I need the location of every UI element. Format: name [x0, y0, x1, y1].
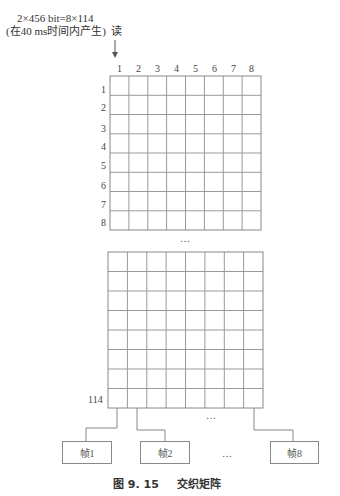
- column-label: 2: [136, 63, 141, 75]
- row-label: 3: [101, 123, 106, 135]
- frame-box-2: 帧2: [140, 441, 190, 464]
- columns-ellipsis: …: [206, 410, 216, 422]
- row-label: 5: [101, 160, 106, 172]
- row-label: 1: [101, 84, 106, 96]
- row-label: 7: [101, 199, 106, 211]
- figure-title: 交织矩阵: [177, 478, 221, 491]
- column-label: 4: [174, 63, 179, 75]
- frame-box-8: 帧8: [270, 441, 319, 464]
- row-label: 6: [101, 180, 106, 192]
- column-label: 3: [155, 63, 160, 75]
- figure-caption: 图 9. 15 交织矩阵: [113, 475, 221, 491]
- column-label: 1: [117, 63, 122, 75]
- row-label: 2: [101, 102, 106, 114]
- frames-ellipsis: …: [222, 448, 232, 460]
- figure-number: 图 9. 15: [113, 478, 159, 491]
- column-label: 7: [231, 63, 236, 75]
- column-label: 8: [249, 63, 254, 75]
- row-label-last: 114: [88, 394, 103, 406]
- row-label: 4: [101, 141, 106, 153]
- frame-box-1: 帧1: [62, 441, 112, 464]
- arrow-down-icon: [112, 52, 118, 58]
- row-label: 8: [101, 217, 106, 229]
- column-label: 5: [193, 63, 198, 75]
- column-label: 6: [212, 63, 217, 75]
- diagram-lines: [0, 0, 340, 496]
- rows-ellipsis: …: [180, 233, 190, 245]
